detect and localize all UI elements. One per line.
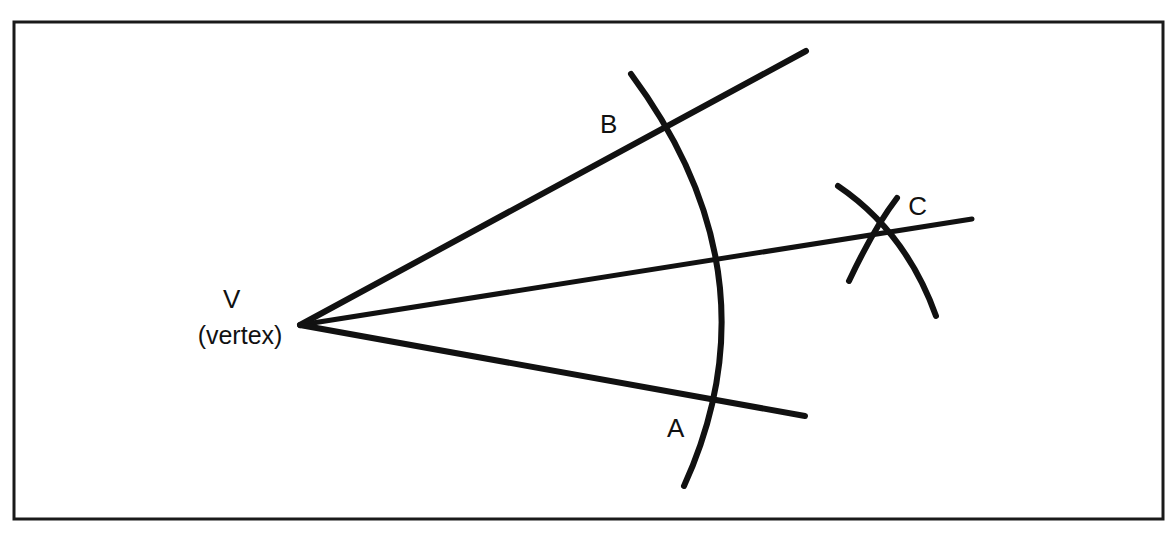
- angle-bisector-figure: V (vertex) B A C: [0, 0, 1174, 540]
- border-frame: [14, 22, 1163, 519]
- label-point-a: A: [667, 413, 685, 443]
- label-vertex-v: V: [223, 284, 241, 314]
- label-vertex-descriptor: (vertex): [198, 321, 283, 349]
- label-point-b: B: [600, 109, 618, 139]
- ray-va: [300, 325, 805, 416]
- label-point-c: C: [908, 191, 927, 221]
- diagram-canvas: V (vertex) B A C: [0, 0, 1174, 540]
